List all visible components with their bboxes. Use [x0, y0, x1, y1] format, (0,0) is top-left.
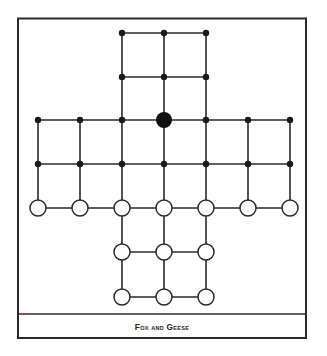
fox-and-geese-figure [0, 0, 327, 356]
board-point [245, 161, 251, 167]
goose-piece [156, 244, 172, 260]
goose-piece [114, 200, 130, 216]
board-point [119, 30, 125, 36]
goose-piece [198, 200, 214, 216]
fox-piece [156, 112, 172, 128]
goose-piece [156, 289, 172, 305]
board-point [119, 161, 125, 167]
board-point [203, 161, 209, 167]
board-point [35, 117, 41, 123]
board-point [77, 161, 83, 167]
goose-piece [156, 200, 172, 216]
goose-piece [240, 200, 256, 216]
board-point [203, 74, 209, 80]
figure-caption: Fox and Geese [30, 315, 295, 338]
board-point [161, 30, 167, 36]
board-point [287, 161, 293, 167]
board-point [245, 117, 251, 123]
goose-piece [30, 200, 46, 216]
board-point [119, 117, 125, 123]
board-point [203, 30, 209, 36]
goose-piece [282, 200, 298, 216]
figure-title: Fox and Geese [135, 322, 189, 332]
goose-piece [114, 244, 130, 260]
board-point [35, 161, 41, 167]
goose-piece [198, 289, 214, 305]
board-point [77, 117, 83, 123]
board-point [287, 117, 293, 123]
goose-piece [198, 244, 214, 260]
board-point [119, 74, 125, 80]
board-point [161, 161, 167, 167]
board-point [203, 117, 209, 123]
goose-piece [72, 200, 88, 216]
goose-piece [114, 289, 130, 305]
board-point [161, 74, 167, 80]
